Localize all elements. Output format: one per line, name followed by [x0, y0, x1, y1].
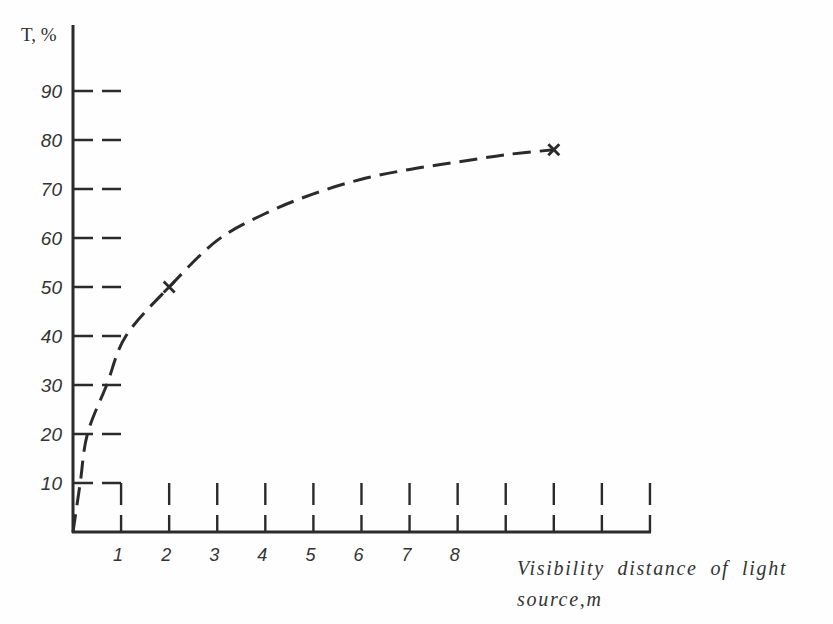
plot-area: 102030405060708090 12345678	[0, 0, 833, 624]
data-series	[73, 150, 554, 532]
x-tick-label: 6	[353, 545, 364, 565]
x-tick-label: 2	[160, 545, 171, 565]
y-tick-label: 40	[41, 326, 63, 347]
x-tick-label: 1	[113, 545, 123, 565]
y-axis-label: T, %	[21, 24, 57, 46]
x-tick-labels: 12345678	[113, 545, 460, 565]
data-markers	[164, 144, 560, 292]
y-tick-label: 80	[41, 130, 63, 151]
y-tick-label: 70	[41, 179, 63, 200]
y-tick-label: 20	[40, 424, 63, 445]
x-tick-label: 4	[257, 545, 267, 565]
y-tick-marks	[74, 91, 121, 483]
x-axis-label: Visibility distance of light source,m	[517, 553, 787, 615]
x-axis-label-line-2: source,m	[517, 584, 787, 615]
y-tick-labels: 102030405060708090	[40, 81, 63, 494]
x-tick-label: 3	[209, 545, 219, 565]
chart-figure: 102030405060708090 12345678 T, % Visibil…	[0, 0, 833, 624]
x-marker-icon	[164, 282, 175, 293]
y-tick-label: 30	[41, 375, 63, 396]
y-tick-label: 90	[41, 81, 63, 102]
x-tick-label: 7	[402, 545, 413, 565]
x-tick-label: 8	[450, 545, 460, 565]
x-tick-marks	[121, 483, 650, 532]
x-tick-label: 5	[305, 545, 316, 565]
y-tick-label: 10	[41, 473, 63, 494]
y-tick-label: 50	[41, 277, 63, 298]
x-axis-label-line-1: Visibility distance of light	[517, 553, 787, 584]
series-line-t	[73, 150, 554, 532]
y-tick-label: 60	[41, 228, 63, 249]
